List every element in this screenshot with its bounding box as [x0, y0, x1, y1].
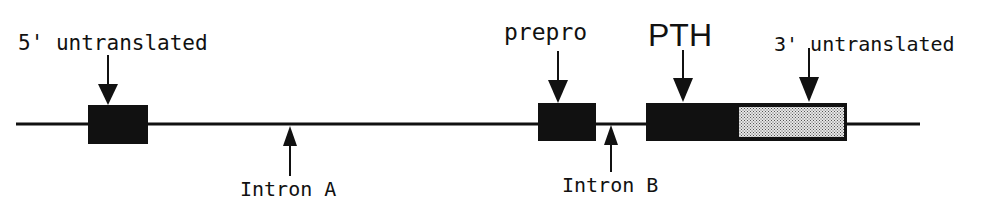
exon-prepro [538, 103, 596, 141]
arrow-intron-b [604, 125, 618, 172]
exon-pth-3-utr [646, 103, 847, 141]
arrow-intron-a [283, 126, 297, 176]
stippled-3-utr-region [739, 107, 844, 137]
label-prepro: prepro [504, 19, 587, 45]
gene-structure-diagram: 5' untranslated Intron A prepro Intron B… [0, 0, 992, 202]
label-3-utr: 3' untranslated [774, 32, 955, 56]
arrow-5-utr [98, 55, 118, 105]
arrow-3-utr [799, 48, 819, 102]
exon-5-utr [88, 105, 148, 144]
arrow-prepro [548, 51, 568, 103]
arrow-pth [673, 50, 693, 102]
label-5-utr: 5' untranslated [18, 31, 208, 55]
label-intron-a: Intron A [240, 177, 336, 201]
label-intron-b: Intron B [562, 173, 658, 197]
label-pth: PTH [648, 17, 712, 53]
